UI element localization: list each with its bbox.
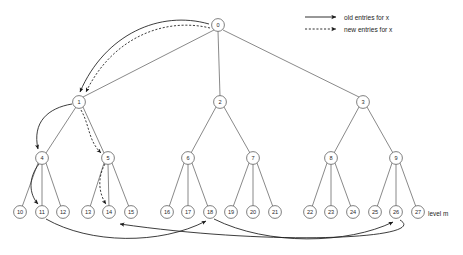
node-label: 19	[228, 209, 234, 215]
node-label: 20	[250, 209, 256, 215]
node-label: 3	[361, 99, 364, 105]
node-label: 4	[40, 155, 43, 161]
node-7[interactable]: 7	[247, 152, 260, 165]
node-20[interactable]: 20	[247, 206, 260, 219]
tree-edge-1-5	[83, 107, 104, 153]
node-label: 10	[17, 209, 23, 215]
pointer-0-to-1-old	[80, 20, 209, 92]
legend-label-old: old entries for x	[344, 14, 390, 21]
node-label: 17	[185, 209, 191, 215]
tree-edges-level0	[83, 30, 359, 97]
pointer-11-to-18-old	[46, 219, 206, 238]
node-10[interactable]: 10	[14, 206, 27, 219]
node-18[interactable]: 18	[204, 206, 217, 219]
node-19[interactable]: 19	[225, 206, 238, 219]
node-label: 15	[128, 209, 134, 215]
pointer-4-to-11-old	[31, 164, 39, 204]
node-label: 22	[307, 209, 313, 215]
node-27[interactable]: 27	[412, 206, 425, 219]
tree-diagram: 0 1 2 3 4 5	[0, 0, 463, 255]
node-1[interactable]: 1	[73, 96, 86, 109]
node-25[interactable]: 25	[369, 206, 382, 219]
node-16[interactable]: 16	[161, 206, 174, 219]
pointer-5-to-14-new	[100, 164, 106, 204]
node-8[interactable]: 8	[325, 152, 338, 165]
tree-edge-5-13	[90, 163, 104, 207]
node-label: 8	[329, 155, 332, 161]
legend-item-new-entries: new entries for x	[305, 26, 393, 33]
node-label: 0	[216, 22, 219, 28]
node-label: 6	[186, 155, 189, 161]
node-12[interactable]: 12	[57, 206, 70, 219]
tree-edge-3-8	[334, 107, 359, 153]
node-label: 9	[394, 155, 397, 161]
node-0[interactable]: 0	[212, 19, 225, 32]
tree-edge-1-4	[46, 107, 76, 153]
node-label: 24	[350, 209, 356, 215]
tree-edge-0-1	[83, 30, 214, 97]
node-label: 26	[393, 209, 399, 215]
legend-label-new: new entries for x	[344, 26, 393, 33]
tree-edge-5-14	[108, 164, 109, 207]
pointer-1-to-4-old	[37, 104, 72, 149]
node-2[interactable]: 2	[214, 96, 227, 109]
tree-edge-6-18	[192, 163, 208, 207]
node-label: 2	[218, 99, 221, 105]
node-label: 18	[207, 209, 213, 215]
node-17[interactable]: 17	[182, 206, 195, 219]
pointer-0-to-1-new	[86, 25, 210, 92]
node-label: 12	[60, 209, 66, 215]
node-4[interactable]: 4	[36, 152, 49, 165]
tree-edge-9-27	[400, 163, 416, 207]
node-15[interactable]: 15	[125, 206, 138, 219]
node-14[interactable]: 14	[103, 206, 116, 219]
node-22[interactable]: 22	[304, 206, 317, 219]
node-label: 23	[328, 209, 334, 215]
tree-edge-7-21	[257, 163, 273, 207]
tree-edge-6-16	[169, 163, 184, 207]
node-label: 13	[85, 209, 91, 215]
tree-edge-3-9	[367, 107, 393, 153]
tree-edges-level2	[22, 163, 416, 207]
node-24[interactable]: 24	[347, 206, 360, 219]
legend-item-old-entries: old entries for x	[305, 14, 390, 21]
legend: old entries for x new entries for x	[305, 14, 393, 33]
tree-edge-7-19	[233, 163, 249, 207]
tree-edge-8-24	[335, 163, 351, 207]
node-label: 21	[272, 209, 278, 215]
node-11[interactable]: 11	[36, 206, 49, 219]
node-label: 5	[106, 155, 109, 161]
node-13[interactable]: 13	[82, 206, 95, 219]
tree-edge-8-22	[312, 163, 327, 207]
node-5[interactable]: 5	[102, 152, 115, 165]
node-21[interactable]: 21	[269, 206, 282, 219]
tree-edge-2-7	[224, 107, 250, 153]
node-26[interactable]: 26	[390, 206, 403, 219]
tree-edge-5-15	[112, 163, 129, 207]
tree-edge-4-12	[46, 163, 61, 207]
node-label: 16	[164, 209, 170, 215]
tree-edge-0-3	[223, 30, 359, 97]
tree-edges-level1	[46, 107, 393, 153]
node-23[interactable]: 23	[325, 206, 338, 219]
tree-edge-2-6	[191, 107, 216, 153]
level-label: level m	[428, 210, 448, 217]
node-label: 25	[372, 209, 378, 215]
node-label: 27	[415, 209, 421, 215]
tree-edge-0-2	[218, 31, 220, 96]
node-label: 7	[251, 155, 254, 161]
node-label: 11	[39, 209, 45, 215]
node-9[interactable]: 9	[390, 152, 403, 165]
node-3[interactable]: 3	[357, 96, 370, 109]
node-label: 14	[106, 209, 112, 215]
tree-edge-9-25	[377, 163, 392, 207]
node-group: 0 1 2 3 4 5	[14, 19, 425, 219]
node-6[interactable]: 6	[182, 152, 195, 165]
node-label: 1	[77, 99, 80, 105]
pointer-1-to-5-new	[81, 110, 101, 153]
diagram-canvas: 0 1 2 3 4 5	[0, 0, 463, 255]
